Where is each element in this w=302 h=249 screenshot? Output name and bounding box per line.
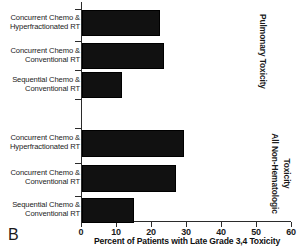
category-label: Concurrent Chemo & Conventional RT: [2, 46, 80, 64]
y-axis-tick: [75, 41, 81, 42]
group-label-non-hematologic-toxicity-line2: Toxicity: [281, 118, 292, 230]
y-axis-tick: [75, 9, 81, 10]
bar: [82, 130, 184, 157]
bar-chart-panel-b: 0 10 20 30 40 50 60 Concurrent Chemo & H…: [0, 0, 302, 249]
group-label-non-hematologic-toxicity-line1: All Non-Hematologic: [269, 118, 280, 230]
category-label: Concurrent Chemo & Hyperfractionated RT: [2, 13, 80, 31]
x-axis-title: Percent of Patients with Late Grade 3,4 …: [81, 236, 293, 246]
group-label-pulmonary-toxicity: Pulmonary Toxicity: [257, 10, 268, 94]
category-label: Sequential Chemo & Conventional RT: [2, 200, 80, 218]
y-axis-tick: [75, 128, 81, 129]
bar: [82, 10, 160, 36]
y-axis-tick: [75, 196, 81, 197]
y-axis-tick: [75, 70, 81, 71]
bar: [82, 72, 122, 98]
bar: [82, 198, 134, 223]
category-label: Sequential Chemo & Conventional RT: [2, 75, 80, 93]
category-label: Concurrent Chemo & Hyperfractionated RT: [2, 133, 80, 151]
y-axis-tick: [75, 163, 81, 164]
bar: [82, 165, 176, 192]
category-label: Concurrent Chemo & Conventional RT: [2, 168, 80, 186]
panel-label: B: [8, 226, 19, 244]
bar: [82, 43, 164, 69]
y-axis-tick: [75, 99, 81, 100]
